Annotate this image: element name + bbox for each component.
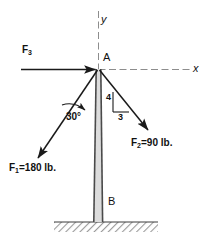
force-label-F1: F1=180 lb.: [9, 163, 56, 173]
diagram-canvas: [0, 0, 205, 240]
point-label-B: B: [108, 196, 115, 207]
post-column: [94, 69, 103, 222]
slope-run-label: 3: [118, 113, 123, 122]
force-F2-unit: lb.: [161, 137, 173, 148]
slope-rise-label: 4: [106, 93, 111, 102]
force-F1-subscript: 1: [15, 167, 19, 174]
force-F2-magnitude: 90: [147, 137, 158, 148]
force-label-F2: F2=90 lb.: [131, 138, 172, 148]
angle-label-30deg: 30°: [66, 112, 81, 122]
ground-support: [54, 222, 158, 232]
force-F1-unit: lb.: [44, 162, 56, 173]
point-label-A: A: [103, 52, 110, 63]
force-label-F3: F3: [22, 45, 32, 55]
slope-triangle: [113, 92, 129, 112]
force-F3-subscript: 3: [28, 49, 32, 56]
force-F1-magnitude: 180: [25, 162, 42, 173]
x-axis-label: x: [193, 63, 199, 74]
angle-leader-arrow: [62, 104, 85, 110]
force-diagram: y x A B F3 F1=180 lb. F2=90 lb. 30° 4 3: [0, 0, 205, 240]
force-F2-subscript: 2: [137, 142, 141, 149]
y-axis-label: y: [101, 14, 107, 25]
